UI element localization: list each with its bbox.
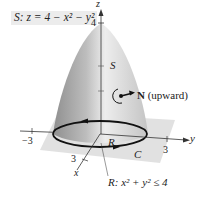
paraboloid-diagram: S: z = 4 − x² − y² z 4 S N (upward) −3 3… — [0, 0, 208, 200]
region-label-R: R — [108, 137, 115, 148]
neg-tick: −3 — [22, 136, 33, 146]
z-tick-4: 4 — [91, 18, 96, 28]
y-axis-arrow-icon — [183, 138, 190, 143]
y-axis-label: y — [190, 133, 195, 144]
region-definition: R: x² + y² ≤ 4 — [108, 177, 167, 188]
surface-label-S: S — [110, 60, 116, 71]
x-tick-3: 3 — [71, 154, 76, 164]
surface-equation: S: z = 4 − x² − y² — [11, 11, 97, 25]
z-axis-label: z — [96, 0, 100, 9]
curve-label-C: C — [134, 149, 141, 160]
normal-label: N (upward) — [137, 90, 188, 101]
x-axis-label: x — [74, 168, 78, 178]
y-tick-3: 3 — [163, 145, 168, 155]
z-axis-arrow-icon — [99, 9, 104, 16]
